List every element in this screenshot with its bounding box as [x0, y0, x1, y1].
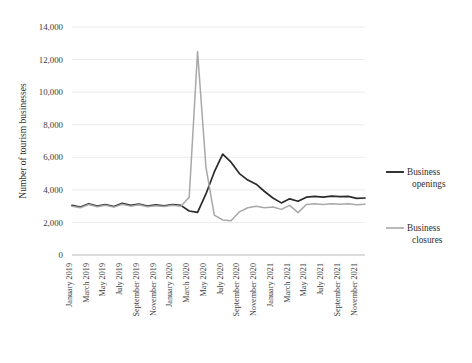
x-tick-label: January 2020: [165, 263, 174, 307]
y-axis-title-text: Number of tourism businesses: [18, 83, 28, 199]
y-tick-label: 14,000: [39, 22, 64, 32]
x-tick-label: September 2020: [232, 263, 241, 316]
x-tick-label: November 2021: [350, 263, 359, 316]
x-tick-label: March 2021: [283, 263, 292, 303]
legend-label-line1: Business: [407, 167, 440, 177]
series-line-business-closures: [72, 51, 365, 220]
x-tick-label: September 2019: [132, 263, 141, 316]
legend-label-line2: openings: [412, 179, 446, 189]
y-tick-label: 6,000: [43, 152, 63, 162]
y-tick-label: 12,000: [39, 55, 64, 65]
x-tick-label: January 2019: [65, 263, 74, 307]
y-tick-label: 8,000: [43, 120, 63, 130]
x-tick-label: September 2021: [333, 263, 342, 316]
x-tick-label: May 2021: [299, 263, 308, 296]
gridlines-group: [72, 27, 365, 255]
data-series-group: [72, 51, 365, 220]
x-tick-label: July 2020: [216, 263, 225, 295]
x-tick-label: March 2019: [82, 263, 91, 303]
y-axis-title: Number of tourism businesses: [18, 83, 28, 199]
chart-figure: 02,0004,0006,0008,00010,00012,00014,000 …: [0, 0, 472, 363]
x-tick-label: January 2021: [266, 263, 275, 307]
legend-label-line1: Business: [407, 223, 440, 233]
x-tick-label: November 2020: [249, 263, 258, 316]
y-tick-label: 2,000: [43, 218, 63, 228]
line-chart: 02,0004,0006,0008,00010,00012,00014,000 …: [0, 0, 472, 363]
legend-label-line2: closures: [412, 235, 443, 245]
y-tick-label: 10,000: [39, 87, 64, 97]
x-tick-label: July 2021: [316, 263, 325, 295]
y-tick-label: 4,000: [43, 185, 63, 195]
x-tick-label: May 2019: [98, 263, 107, 296]
chart-legend: BusinessopeningsBusinessclosures: [386, 167, 446, 245]
x-tick-label: March 2020: [182, 263, 191, 303]
x-tick-label: July 2019: [115, 263, 124, 295]
x-axis-tick-labels: January 2019March 2019May 2019July 2019S…: [65, 263, 359, 316]
x-tick-label: November 2019: [149, 263, 158, 316]
x-tick-label: May 2020: [199, 263, 208, 296]
y-tick-label: 0: [59, 250, 64, 260]
y-axis-tick-labels: 02,0004,0006,0008,00010,00012,00014,000: [39, 22, 64, 260]
